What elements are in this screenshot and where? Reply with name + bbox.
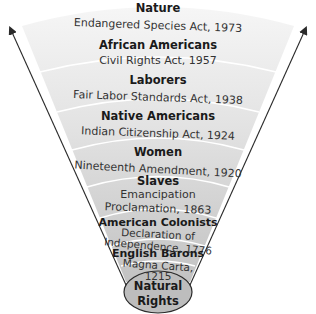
group-label: Women <box>134 145 182 159</box>
group-label: Laborers <box>129 73 186 87</box>
law-label-line1: Emancipation <box>120 188 195 201</box>
group-label: Nature <box>136 1 181 15</box>
law-label-line2: 1215 <box>145 270 172 282</box>
law-label: Civil Rights Act, 1957 <box>99 54 217 67</box>
group-label: Native Americans <box>101 109 215 123</box>
base-label-line2: Rights <box>137 294 179 308</box>
group-label: Slaves <box>137 174 179 188</box>
group-label: African Americans <box>99 38 217 52</box>
rights-expansion-diagram: Natural Rights Nature Endangered Species… <box>0 0 316 314</box>
